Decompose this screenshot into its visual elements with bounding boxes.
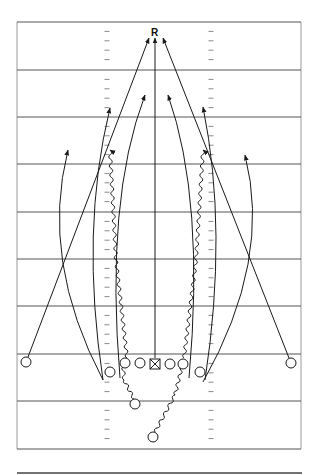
route-left-wavy	[109, 150, 128, 358]
route-left-inside-arc	[116, 95, 145, 378]
center-square-x-icon	[150, 359, 160, 369]
lineman-circle	[135, 358, 145, 368]
field-lines	[17, 22, 302, 473]
route-back2-wavy	[154, 362, 184, 432]
play-diagram: R	[0, 0, 317, 475]
wide-receiver-circle	[21, 357, 31, 367]
route-left-wr-post	[28, 38, 149, 357]
route-right-wr-post	[163, 38, 289, 358]
players	[21, 357, 296, 442]
end-circle	[105, 367, 115, 377]
wide-receiver-circle	[286, 358, 296, 368]
end-circle	[195, 367, 205, 377]
receiver-label: R	[151, 27, 159, 38]
lineman-circle	[120, 358, 130, 368]
route-right-inside-arc	[168, 95, 194, 378]
back-circle	[130, 399, 140, 409]
lineman-circle	[178, 359, 188, 369]
routes	[28, 38, 289, 432]
back-circle	[148, 432, 158, 442]
lineman-circle	[165, 359, 175, 369]
route-right-seam	[203, 107, 216, 380]
